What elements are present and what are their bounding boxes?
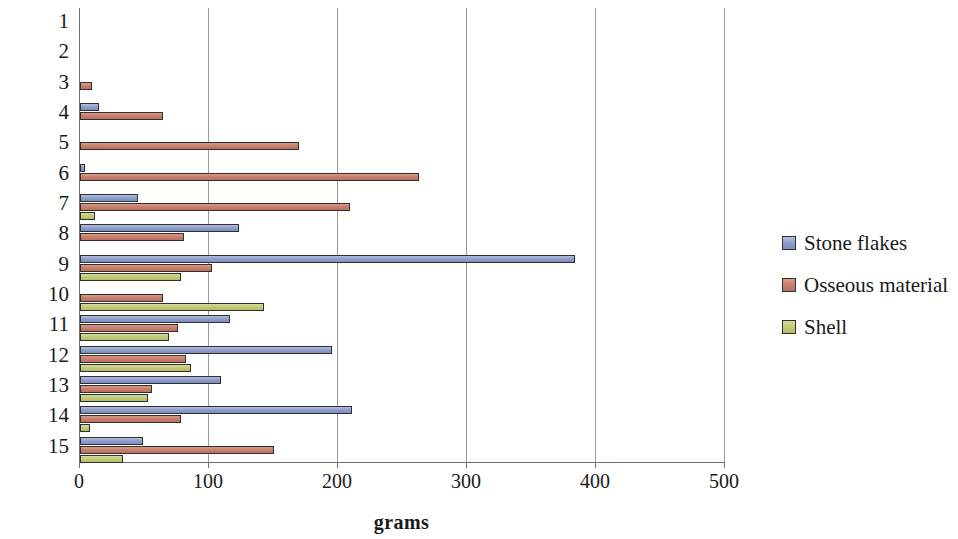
- bar: [80, 406, 352, 414]
- bar: [80, 112, 163, 120]
- y-axis-title: Spit: [0, 160, 1, 280]
- bar: [80, 164, 85, 172]
- x-tick-label: 500: [689, 470, 759, 493]
- gridline: [724, 8, 725, 463]
- bar: [80, 437, 143, 445]
- bar-group: 11: [79, 311, 724, 341]
- chart-legend: Stone flakesOsseous materialShell: [782, 222, 948, 348]
- x-tick-label: 300: [431, 470, 501, 493]
- bar: [80, 394, 148, 402]
- x-tick-label: 200: [302, 470, 372, 493]
- bar: [80, 346, 332, 354]
- y-tick-label: 6: [11, 161, 69, 186]
- x-tick-label: 100: [173, 470, 243, 493]
- bar: [80, 194, 138, 202]
- bar: [80, 255, 575, 263]
- legend-item: Osseous material: [782, 264, 948, 306]
- bar: [80, 294, 163, 302]
- legend-swatch-icon: [782, 236, 796, 250]
- bar-group: 2: [79, 38, 724, 68]
- bar: [80, 446, 274, 454]
- bar: [80, 364, 191, 372]
- bar: [80, 324, 178, 332]
- legend-label: Osseous material: [804, 273, 948, 298]
- legend-item: Stone flakes: [782, 222, 948, 264]
- bar-group: 14: [79, 402, 724, 432]
- bar: [80, 333, 169, 341]
- bar-group: 15: [79, 433, 724, 463]
- y-tick-label: 14: [11, 403, 69, 428]
- bar-group: 4: [79, 99, 724, 129]
- legend-label: Shell: [804, 315, 847, 340]
- y-tick-label: 4: [11, 100, 69, 125]
- bar: [80, 103, 99, 111]
- bar-group: 8: [79, 220, 724, 250]
- bar: [80, 355, 186, 363]
- bar-group: 3: [79, 69, 724, 99]
- y-tick-label: 2: [11, 39, 69, 64]
- x-axis-title: grams: [79, 511, 724, 534]
- bar: [80, 376, 221, 384]
- bar: [80, 212, 95, 220]
- legend-swatch-icon: [782, 278, 796, 292]
- x-tick-mark: [724, 462, 725, 468]
- bar: [80, 264, 212, 272]
- bar: [80, 203, 350, 211]
- legend-item: Shell: [782, 306, 948, 348]
- y-tick-label: 3: [11, 70, 69, 95]
- x-tick-label: 400: [560, 470, 630, 493]
- bar-group: 1: [79, 8, 724, 38]
- y-tick-label: 13: [11, 373, 69, 398]
- plot-area: 0100200300400500 123456789101112131415: [79, 8, 724, 463]
- y-tick-label: 11: [11, 312, 69, 337]
- bar-group: 5: [79, 129, 724, 159]
- bar: [80, 424, 90, 432]
- y-tick-label: 1: [11, 9, 69, 34]
- y-tick-label: 10: [11, 282, 69, 307]
- bar: [80, 385, 152, 393]
- bar: [80, 233, 184, 241]
- bar-chart: Spit 0100200300400500 123456789101112131…: [0, 0, 958, 539]
- y-tick-label: 9: [11, 252, 69, 277]
- bar: [80, 303, 264, 311]
- legend-label: Stone flakes: [804, 231, 907, 256]
- bar: [80, 315, 230, 323]
- bar: [80, 455, 123, 463]
- y-tick-label: 7: [11, 191, 69, 216]
- bar: [80, 173, 419, 181]
- y-tick-label: 12: [11, 343, 69, 368]
- y-tick-label: 15: [11, 434, 69, 459]
- y-tick-label: 5: [11, 130, 69, 155]
- bar-group: 6: [79, 160, 724, 190]
- x-tick-label: 0: [44, 470, 114, 493]
- bar-group: 10: [79, 281, 724, 311]
- y-tick-label: 8: [11, 221, 69, 246]
- bar-group: 7: [79, 190, 724, 220]
- bar: [80, 224, 239, 232]
- bar-group: 13: [79, 372, 724, 402]
- legend-swatch-icon: [782, 320, 796, 334]
- bar-group: 12: [79, 342, 724, 372]
- bar-group: 9: [79, 251, 724, 281]
- bar: [80, 415, 181, 423]
- bar: [80, 82, 92, 90]
- bar: [80, 142, 299, 150]
- bar: [80, 273, 181, 281]
